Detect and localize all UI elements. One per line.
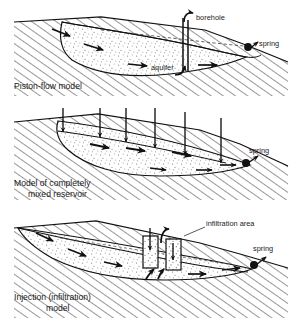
label-aquifer: aquifer xyxy=(151,63,174,72)
label-spring-mixed: spring xyxy=(249,146,269,155)
figure-aquifer-flow-models: borehole aquifer spring Piston-flow mode… xyxy=(0,0,295,323)
caption-mixed-line1: Model of completely xyxy=(14,178,91,188)
panel-piston-flow: borehole aquifer spring Piston-flow mode… xyxy=(10,12,295,102)
leader-line-infiltration-area xyxy=(184,227,205,236)
label-borehole: borehole xyxy=(196,13,225,22)
label-infiltration-area: infiltration area xyxy=(206,219,255,228)
label-spring-injection: spring xyxy=(253,244,273,253)
caption-injection-line1: Injection (infiltration) xyxy=(14,292,91,302)
caption-mixed-line2: mixed reservoir xyxy=(28,189,87,199)
caption-injection-line2: model xyxy=(46,303,69,313)
panel-completely-mixed-reservoir: spring Model of completely mixed reservo… xyxy=(10,108,295,205)
caption-piston-flow-model: Piston-flow model xyxy=(14,81,82,91)
diagram-canvas: borehole aquifer spring Piston-flow mode… xyxy=(0,0,295,323)
label-spring-piston: spring xyxy=(259,39,279,48)
panel-injection-infiltration: infiltration area spring Injection (infi… xyxy=(10,216,295,320)
